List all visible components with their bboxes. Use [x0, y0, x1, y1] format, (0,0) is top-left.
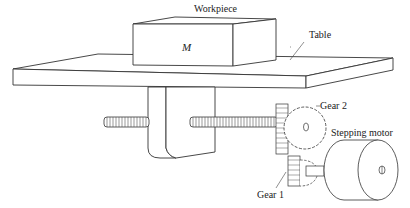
table-label: Table: [309, 30, 331, 40]
gear1-leader-line: [276, 172, 286, 188]
workpiece-block: [133, 17, 276, 66]
lead-screw-right: [190, 117, 278, 127]
stepping-motor: [324, 140, 398, 200]
workpiece-label: Workpiece: [194, 4, 237, 14]
stepping-motor-label: Stepping motor: [331, 128, 393, 138]
lead-screw-left: [104, 117, 149, 127]
gear-2: [276, 104, 326, 154]
motor-shaft: [306, 166, 324, 176]
gear1-label: Gear 1: [257, 190, 284, 200]
positioning-table-diagram: Workpiece M Table Gear 2 Stepping motor …: [0, 0, 410, 208]
gear2-label: Gear 2: [320, 101, 347, 111]
mass-symbol: M: [182, 42, 191, 53]
